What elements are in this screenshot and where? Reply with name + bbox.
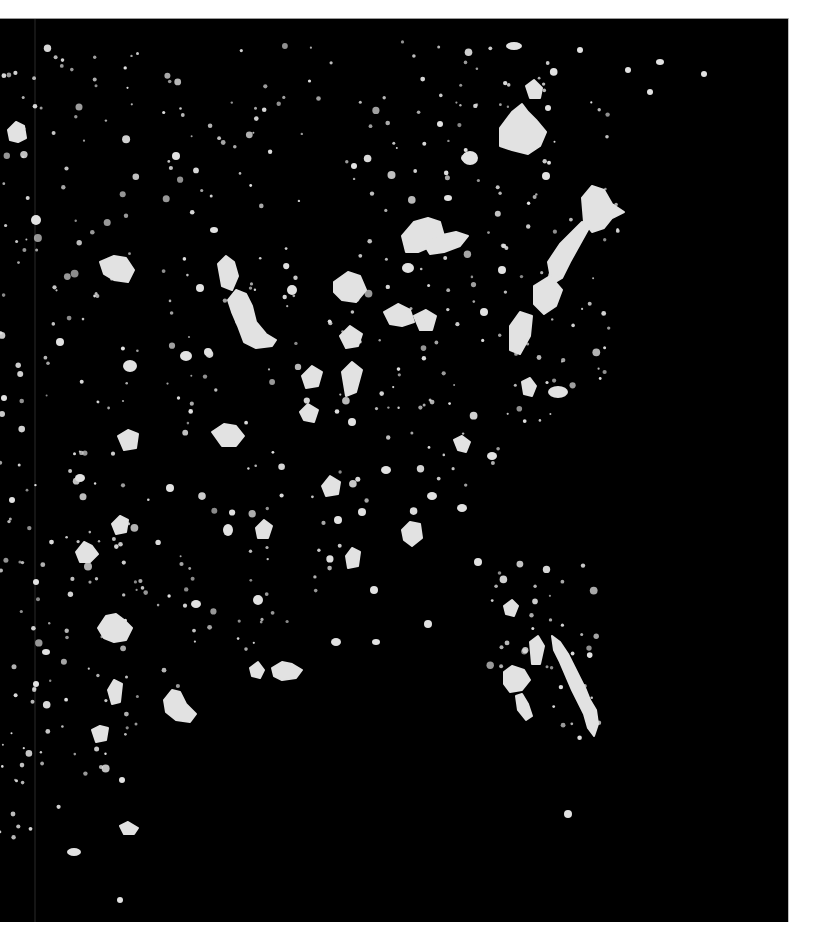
city-lights-duluth — [172, 152, 180, 160]
city-lights-omaha — [123, 360, 137, 372]
city-lights-norfolk — [548, 386, 568, 398]
frame-right-edge — [788, 18, 789, 922]
city-lights-halifax — [701, 71, 707, 77]
city-lights-little-rock — [223, 524, 233, 536]
city-lights-milwaukee — [218, 256, 238, 290]
city-lights-toronto — [402, 263, 414, 273]
city-lights-el-paso-edge — [1, 395, 7, 401]
city-lights-pensacola — [372, 639, 380, 645]
city-lights-mobile — [331, 638, 341, 646]
city-lights-boston-north — [526, 80, 542, 98]
city-lights-nashville — [322, 476, 340, 496]
city-lights-mcallen — [117, 897, 123, 903]
city-lights-atlanta — [402, 522, 422, 546]
city-lights-victoria-tx — [119, 777, 125, 783]
city-lights-tallahassee — [424, 620, 432, 628]
city-lights-birmingham — [346, 548, 360, 568]
city-lights-des-moines — [180, 351, 192, 361]
city-lights-lubbock — [33, 579, 39, 585]
city-lights-abilene — [42, 649, 50, 655]
city-lights-greenville — [427, 492, 437, 500]
city-lights-grand-rapids — [287, 285, 297, 295]
city-lights-orlando — [530, 636, 544, 664]
city-lights-laredo — [33, 681, 39, 687]
city-lights-montgomery — [370, 586, 378, 594]
city-lights-columbia — [457, 504, 467, 512]
city-lights-portland-me — [577, 47, 583, 53]
city-lights-huntsville — [334, 516, 342, 524]
city-lights-st-louis — [212, 424, 244, 446]
city-lights-boston — [500, 104, 546, 154]
city-lights-raleigh — [487, 452, 497, 460]
city-lights-fargo — [31, 215, 41, 225]
city-lights-chicago — [228, 290, 276, 348]
city-lights-chattanooga — [358, 508, 366, 516]
city-lights-harrisburg — [480, 308, 488, 316]
city-lights-baton-rouge — [250, 662, 264, 678]
city-lights-sioux-falls — [56, 338, 64, 346]
city-lights-minneapolis — [100, 256, 134, 282]
city-lights-pittsburgh — [414, 310, 436, 330]
city-lights-memphis — [256, 520, 272, 538]
city-lights-scranton — [498, 266, 506, 274]
city-lights-houston — [164, 690, 196, 722]
city-lights-providence — [506, 42, 522, 50]
city-lights-madison — [196, 284, 204, 292]
city-lights-ottawa — [444, 195, 452, 201]
city-lights-philadelphia — [534, 276, 562, 314]
night-lights-map: Eastern United States satellite night li… — [0, 18, 788, 922]
city-lights-tampa — [504, 666, 530, 692]
city-lights-hartford — [542, 172, 550, 180]
frame-top-edge — [0, 18, 788, 19]
city-lights-kansas-city — [118, 430, 138, 450]
city-lights-tulsa — [112, 516, 128, 534]
city-lights-indianapolis — [302, 366, 322, 388]
city-lights-amarillo — [9, 497, 15, 503]
city-lights-quebec — [625, 67, 631, 73]
city-lights-springfield-mo — [166, 484, 174, 492]
city-lights-baltimore-dc — [510, 312, 532, 354]
city-lights-knoxville — [381, 466, 391, 474]
map-canvas — [0, 18, 788, 922]
city-lights-corpus-christi — [120, 822, 138, 834]
city-lights-florida-west-coast — [516, 694, 532, 720]
city-lights-richmond — [522, 378, 536, 396]
city-lights-sudbury — [351, 163, 357, 169]
city-lights-bermuda-dot — [564, 810, 572, 818]
city-lights-louisville — [300, 404, 318, 422]
city-lights-dallas — [98, 614, 132, 642]
city-lights-columbus — [340, 326, 362, 348]
city-lights-charlotte — [454, 436, 470, 452]
city-lights-jacksonville — [504, 600, 518, 616]
city-lights-cleveland — [384, 304, 414, 326]
city-lights-jackson — [253, 595, 263, 605]
city-lights-oklahoma-city — [76, 542, 98, 562]
city-lights-moncton — [656, 59, 664, 65]
city-lights-shreveport — [191, 600, 201, 608]
city-lights-green-bay — [210, 227, 218, 233]
city-lights-cincinnati — [342, 362, 362, 396]
city-lights-lexington — [348, 418, 356, 426]
city-lights-bangor — [545, 105, 551, 111]
city-lights-saint-john — [647, 89, 653, 95]
city-lights-new-orleans — [272, 662, 302, 680]
city-lights-winnipeg-area — [8, 122, 26, 142]
city-lights-austin — [108, 680, 122, 704]
city-lights-florida-east-coast — [552, 636, 598, 736]
city-lights-montreal — [461, 154, 471, 162]
city-lights-peoria — [204, 348, 212, 356]
city-lights-san-antonio — [92, 726, 108, 742]
city-lights-detroit — [334, 272, 366, 302]
city-lights-burlington — [437, 121, 443, 127]
city-lights-brownsville — [67, 848, 81, 856]
city-lights-savannah — [474, 558, 482, 566]
city-lights-wichita — [75, 474, 85, 482]
